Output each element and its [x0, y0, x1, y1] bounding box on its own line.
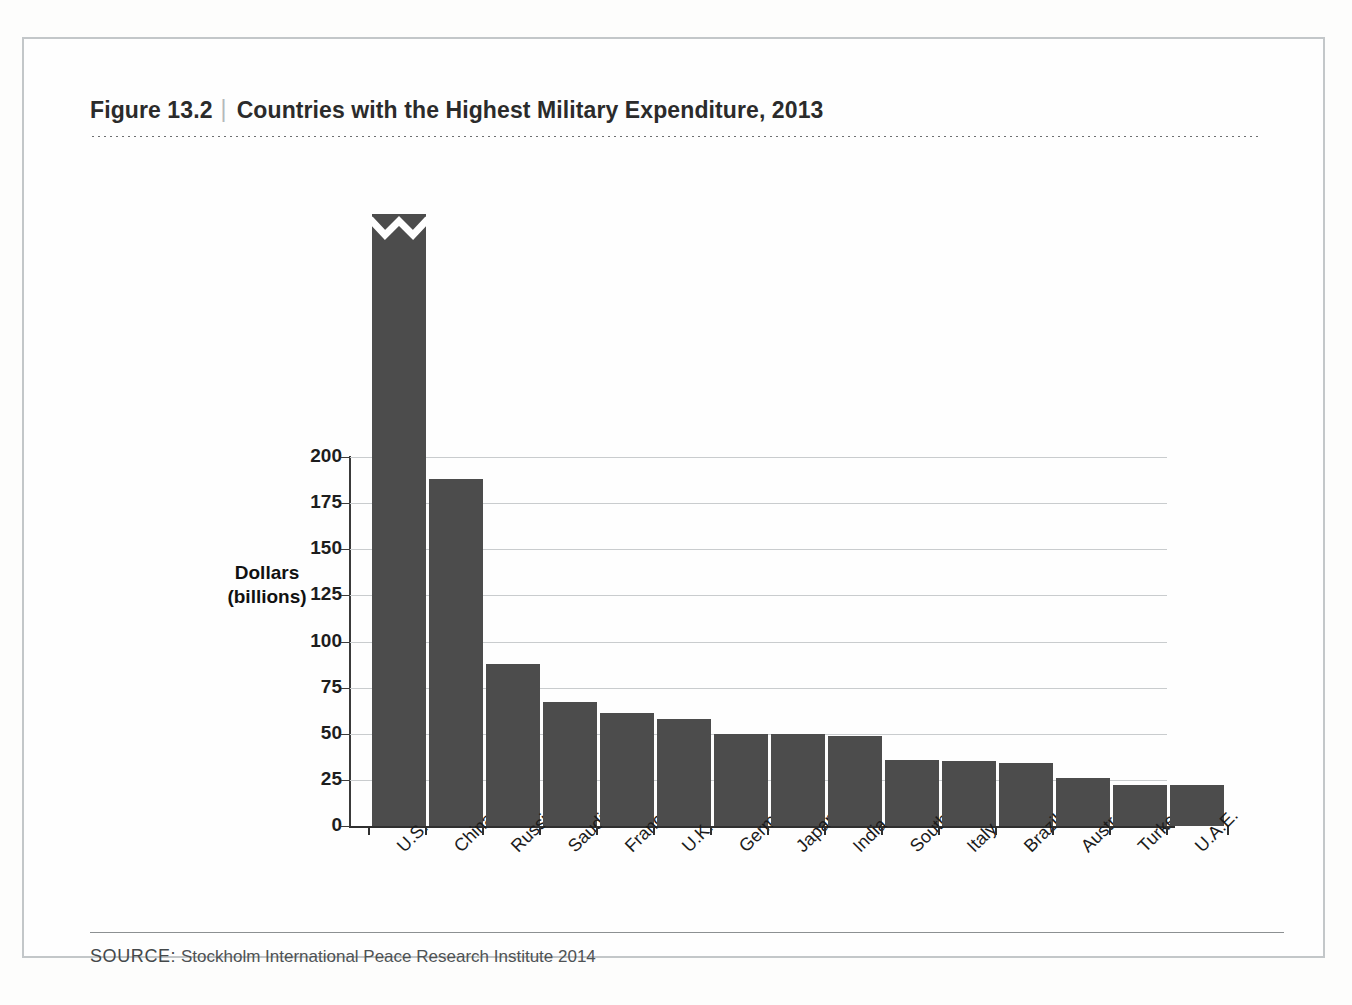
bar-italy[interactable] — [942, 761, 996, 826]
x-axis-tick — [425, 826, 427, 835]
x-axis-tick — [767, 826, 769, 835]
figure-number: Figure 13.2 — [90, 97, 213, 123]
y-axis-tick — [341, 826, 350, 827]
x-axis-tick — [881, 826, 883, 835]
gridline — [350, 457, 1167, 458]
x-axis-tick — [539, 826, 541, 835]
bar-china[interactable] — [429, 479, 483, 826]
x-axis-tick — [1166, 826, 1168, 835]
bar-france[interactable] — [600, 713, 654, 826]
y-axis-tick-labels: 0255075100125150175200 — [282, 457, 342, 826]
x-axis-tick — [596, 826, 598, 835]
source-note: SOURCE: Stockholm International Peace Re… — [90, 946, 596, 967]
axis-break-zigzag-icon — [372, 213, 426, 247]
y-axis-tick — [341, 595, 350, 596]
y-axis-tick — [341, 503, 350, 504]
bar-japan[interactable] — [771, 734, 825, 826]
x-axis-tick — [368, 826, 370, 835]
plot-area: 640U.S.ChinaRussiaSaudi ArabiaFranceU.K.… — [350, 457, 1167, 826]
y-axis-tick — [341, 642, 350, 643]
bar-germany[interactable] — [714, 734, 768, 826]
x-axis-tick — [938, 826, 940, 835]
y-axis-tick-label: 150 — [296, 537, 342, 559]
y-axis-tick — [341, 549, 350, 550]
x-axis-tick — [824, 826, 826, 835]
x-axis-tick — [710, 826, 712, 835]
bar-india[interactable] — [828, 736, 882, 826]
title-dotted-rule — [90, 135, 1262, 138]
source-rule — [90, 932, 1284, 933]
x-axis-tick — [482, 826, 484, 835]
y-axis-tick — [341, 780, 350, 781]
y-axis-tick — [341, 734, 350, 735]
title-divider: | — [221, 96, 227, 123]
source-citation: Stockholm International Peace Research I… — [181, 947, 596, 966]
x-axis-tick — [653, 826, 655, 835]
y-axis-tick-label: 50 — [296, 722, 342, 744]
figure-title-text: Countries with the Highest Military Expe… — [237, 97, 824, 123]
source-label: SOURCE: — [90, 946, 176, 966]
y-axis-tick-label: 25 — [296, 768, 342, 790]
y-axis-tick-label: 75 — [296, 676, 342, 698]
y-axis-tick — [341, 688, 350, 689]
x-axis-tick — [1052, 826, 1054, 835]
bar-saudi-arabia[interactable] — [543, 702, 597, 826]
y-axis-tick-label: 125 — [296, 583, 342, 605]
x-axis-tick — [995, 826, 997, 835]
figure-frame: Figure 13.2|Countries with the Highest M… — [22, 37, 1325, 958]
x-axis-tick — [1109, 826, 1111, 835]
y-axis-tick — [341, 457, 350, 458]
bar-russia[interactable] — [486, 664, 540, 826]
y-axis-tick-label: 175 — [296, 491, 342, 513]
figure-title: Figure 13.2|Countries with the Highest M… — [90, 97, 823, 124]
y-axis-tick-label: 100 — [296, 630, 342, 652]
bar-u-k[interactable] — [657, 719, 711, 826]
bar-u-s[interactable] — [372, 214, 426, 826]
y-axis-tick-label: 0 — [296, 814, 342, 836]
y-axis-tick-label: 200 — [296, 445, 342, 467]
